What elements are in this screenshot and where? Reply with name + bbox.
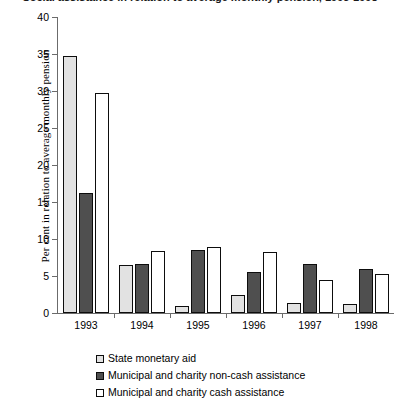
bar	[247, 272, 262, 313]
legend-label: State monetary aid	[108, 353, 196, 364]
bar	[135, 264, 150, 313]
y-tick-mark	[52, 17, 58, 18]
legend-item: Municipal and charity cash assistance	[96, 384, 396, 401]
x-tick-label: 1996	[226, 319, 282, 331]
plot-area: 0510152025303540 19931994199519961997199…	[58, 17, 394, 313]
bar-group	[175, 17, 222, 313]
y-tick-label: 15	[37, 197, 49, 207]
legend-item: Municipal and charity non-cash assistanc…	[96, 367, 396, 384]
chart-title: Social assistance in relation to average…	[0, 0, 400, 3]
legend-label: Municipal and charity cash assistance	[108, 387, 284, 398]
legend-swatch-icon	[96, 389, 104, 397]
y-tick-label: 0	[43, 308, 49, 318]
legend-swatch-icon	[96, 355, 104, 363]
chart-legend: State monetary aidMunicipal and charity …	[96, 350, 396, 401]
y-tick-mark	[52, 128, 58, 129]
bar-group	[63, 17, 110, 313]
bar-group	[231, 17, 278, 313]
y-tick-label: 35	[37, 49, 49, 59]
y-tick-label: 25	[37, 123, 49, 133]
x-tick-label: 1995	[170, 319, 226, 331]
bar	[207, 247, 222, 313]
bar	[375, 274, 390, 313]
legend-item: State monetary aid	[96, 350, 396, 367]
y-tick-mark	[52, 91, 58, 92]
bar-chart: Social assistance in relation to average…	[0, 0, 400, 411]
chart-title-clipped: Social assistance in relation to average…	[0, 0, 400, 9]
bar	[303, 264, 318, 313]
bar	[95, 93, 110, 313]
legend-swatch-icon	[96, 372, 104, 380]
y-tick-label: 5	[43, 271, 49, 281]
bar	[79, 193, 94, 313]
y-tick-mark	[52, 54, 58, 55]
bar-group	[287, 17, 334, 313]
x-tick-mark	[226, 313, 227, 318]
bar	[63, 56, 78, 313]
x-tick-mark	[114, 313, 115, 318]
bar	[151, 251, 166, 313]
x-tick-label: 1993	[58, 319, 114, 331]
bar	[263, 252, 278, 313]
y-tick-label: 10	[37, 234, 49, 244]
x-tick-mark	[338, 313, 339, 318]
x-tick-mark	[170, 313, 171, 318]
y-tick-mark	[52, 165, 58, 166]
x-tick-label: 1998	[338, 319, 394, 331]
y-tick-mark	[52, 239, 58, 240]
bar	[119, 265, 134, 313]
bar	[343, 304, 358, 313]
bar	[231, 295, 246, 313]
x-tick-label: 1997	[282, 319, 338, 331]
y-tick-label: 40	[37, 12, 49, 22]
bar	[191, 250, 206, 313]
y-tick-mark	[52, 276, 58, 277]
bar	[359, 269, 374, 313]
y-tick-mark	[52, 313, 58, 314]
bar-group	[343, 17, 390, 313]
x-tick-label: 1994	[114, 319, 170, 331]
y-tick-label: 20	[37, 160, 49, 170]
bar	[287, 303, 302, 313]
bar-group	[119, 17, 166, 313]
bar	[175, 306, 190, 313]
legend-label: Municipal and charity non-cash assistanc…	[108, 370, 305, 381]
y-tick-mark	[52, 202, 58, 203]
x-tick-mark	[282, 313, 283, 318]
y-tick-label: 30	[37, 86, 49, 96]
bar	[319, 280, 334, 313]
